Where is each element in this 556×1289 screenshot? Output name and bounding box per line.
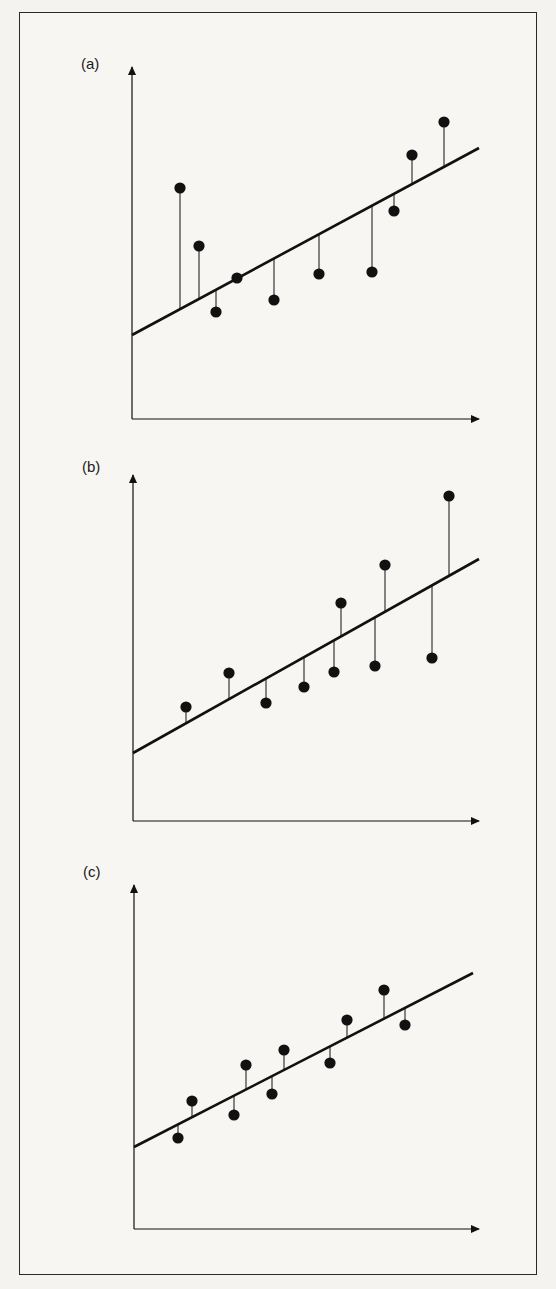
data-point: [388, 205, 399, 216]
data-point: [240, 1059, 251, 1070]
panel-label-a: (a): [81, 55, 99, 72]
data-point: [366, 266, 377, 277]
data-point: [193, 240, 204, 251]
regression-line: [134, 973, 473, 1147]
data-point: [186, 1095, 197, 1106]
panel-b: (b): [82, 458, 479, 821]
panel-a: (a): [81, 55, 479, 419]
data-point: [341, 1014, 352, 1025]
data-point: [268, 294, 279, 305]
data-point: [399, 1019, 410, 1030]
data-point: [335, 597, 346, 608]
residual-plots-figure: (a) (b) (c): [0, 0, 556, 1289]
data-point: [379, 559, 390, 570]
regression-line: [132, 148, 479, 335]
data-point: [378, 984, 389, 995]
panel-label-c: (c): [83, 863, 101, 880]
data-point: [298, 681, 309, 692]
data-point: [228, 1109, 239, 1120]
data-point: [406, 149, 417, 160]
data-point: [426, 652, 437, 663]
panel-label-b: (b): [82, 458, 100, 475]
panel-c: (c): [83, 863, 479, 1229]
data-point: [369, 660, 380, 671]
data-point: [443, 490, 454, 501]
data-point: [438, 116, 449, 127]
data-point: [324, 1057, 335, 1068]
data-point: [266, 1088, 277, 1099]
data-point: [210, 306, 221, 317]
data-point: [172, 1132, 183, 1143]
data-point: [328, 666, 339, 677]
data-point: [180, 701, 191, 712]
data-point: [260, 697, 271, 708]
data-point: [174, 182, 185, 193]
data-point: [313, 268, 324, 279]
data-point: [223, 667, 234, 678]
data-point: [231, 272, 242, 283]
data-point: [278, 1044, 289, 1055]
